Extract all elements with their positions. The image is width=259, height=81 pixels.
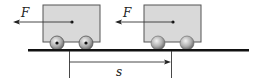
initial-cart: F (13, 5, 100, 50)
wheel-icon (151, 36, 165, 50)
physics-diagram: F F s (0, 0, 259, 81)
force-label: F (20, 6, 30, 20)
displacement-label: s (116, 65, 122, 79)
axle-dot (84, 41, 87, 44)
force-label: F (122, 6, 132, 20)
ground-track (28, 49, 249, 52)
final-cart: F (115, 5, 201, 50)
wheel-icon (180, 36, 194, 50)
axle-dot (55, 41, 58, 44)
